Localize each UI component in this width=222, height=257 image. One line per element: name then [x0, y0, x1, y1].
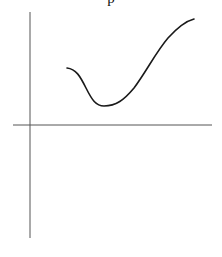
curve — [67, 19, 194, 106]
plot-area — [0, 0, 222, 257]
